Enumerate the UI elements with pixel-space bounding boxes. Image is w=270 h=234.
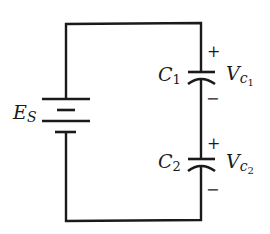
- c1-minus-sign: −: [206, 89, 219, 108]
- circuit-diagram: ES C1 + − Vc1 C2 + − Vc2: [0, 0, 270, 234]
- c2-plus-sign: +: [207, 134, 220, 153]
- battery-symbol: [42, 99, 90, 132]
- c2-minus-sign: −: [206, 180, 219, 199]
- vc2-label: Vc2: [226, 150, 254, 176]
- c1-plus-sign: +: [207, 42, 220, 61]
- vc1-label: Vc1: [226, 62, 254, 88]
- c2-label: C2: [158, 150, 181, 174]
- wire-bottom: [66, 133, 201, 221]
- source-label: ES: [12, 101, 36, 125]
- c1-label: C1: [158, 63, 181, 87]
